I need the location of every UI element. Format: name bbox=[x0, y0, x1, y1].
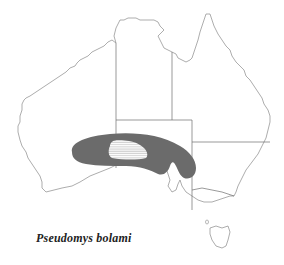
state-borders bbox=[116, 43, 270, 210]
island-icon bbox=[206, 220, 209, 224]
species-name-caption: Pseudomys bolami bbox=[36, 231, 132, 246]
tasmania-coastline bbox=[210, 226, 230, 248]
australia-coastline bbox=[18, 14, 270, 202]
australia-distribution-map bbox=[0, 0, 284, 265]
